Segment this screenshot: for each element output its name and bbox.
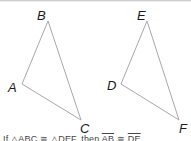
congruent-symbol: ≅ — [114, 134, 128, 141]
triangle-def — [121, 21, 179, 120]
vertex-label-a: A — [7, 80, 17, 95]
vertex-label-e: E — [137, 8, 146, 23]
triangle-abc — [22, 21, 81, 120]
segment-ab: AB — [102, 134, 114, 141]
vertex-label-d: D — [107, 78, 116, 93]
congruence-caption: If △ABC ≅ △DEF, then AB ≅ DE — [3, 134, 141, 141]
segment-de: DE — [128, 134, 141, 141]
vertex-label-f: F — [179, 121, 188, 136]
congruent-triangles-diagram: B A C E D F — [0, 0, 191, 141]
caption-prefix: If △ABC ≅ △DEF, then — [3, 134, 100, 141]
vertex-label-b: B — [37, 8, 46, 23]
